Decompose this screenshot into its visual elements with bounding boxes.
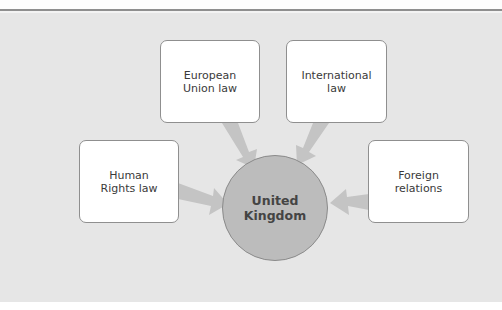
node-human-rights-law: Human Rights law xyxy=(79,140,179,223)
hub-united-kingdom: United Kingdom xyxy=(222,155,328,261)
hub-label: United Kingdom xyxy=(244,193,306,223)
node-label: European Union law xyxy=(183,69,237,95)
node-label: Foreign relations xyxy=(395,169,443,195)
node-label: Human Rights law xyxy=(101,169,158,195)
node-foreign-relations: Foreign relations xyxy=(368,140,469,223)
node-label: International law xyxy=(301,69,371,95)
arrow-human-rights-to-uk xyxy=(178,183,228,215)
node-international-law: International law xyxy=(286,40,387,123)
arrow-foreign-to-uk xyxy=(330,189,369,215)
node-european-union-law: European Union law xyxy=(160,40,260,123)
arrow-international-to-uk xyxy=(296,123,329,165)
